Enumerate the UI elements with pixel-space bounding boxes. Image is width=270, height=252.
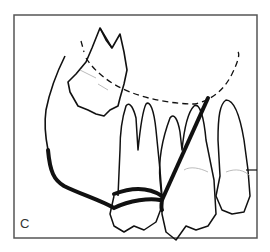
panel-label: C (20, 216, 29, 231)
wire-contour (48, 150, 162, 210)
dental-illustration (0, 0, 270, 252)
panel-frame (14, 15, 257, 238)
wire-contour-segment (114, 189, 162, 196)
arch-curve-dashed (81, 41, 239, 104)
dental-figure: C (0, 0, 270, 252)
teeth-row (110, 100, 257, 240)
soft-tissue-contour (45, 56, 65, 150)
impacted-tooth (68, 28, 127, 116)
